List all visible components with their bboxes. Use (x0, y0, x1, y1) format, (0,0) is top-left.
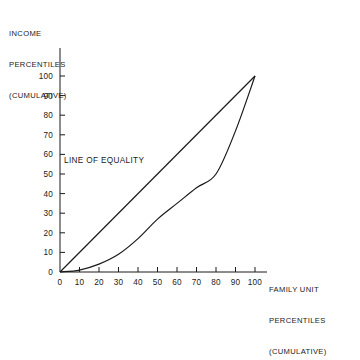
y-tick-label: 80 (43, 111, 53, 120)
line-of-equality-annotation: LINE OF EQUALITY (64, 156, 144, 165)
x-axis-title-line-3: (CUMULATIVE) (269, 347, 327, 357)
x-tick-label: 100 (248, 278, 262, 287)
x-tick-label: 60 (172, 278, 182, 287)
x-tick-label: 30 (114, 278, 124, 287)
x-tick-label: 10 (75, 278, 85, 287)
y-tick-label: 90 (43, 91, 53, 100)
y-tick-label: 30 (43, 209, 53, 218)
y-tick-label: 10 (43, 248, 53, 257)
y-tick-label: 20 (43, 228, 53, 237)
x-tick-label: 0 (58, 278, 63, 287)
x-tick-label: 50 (153, 278, 163, 287)
x-tick-label: 20 (94, 278, 104, 287)
y-tick-label: 40 (43, 189, 53, 198)
y-tick-label: 100 (39, 72, 53, 81)
x-tick-label: 70 (192, 278, 202, 287)
data-series (60, 76, 255, 272)
line-of-equality (60, 76, 255, 272)
y-tick-label: 70 (43, 130, 53, 139)
y-tick-label: 50 (43, 170, 53, 179)
x-tick-label: 40 (133, 278, 143, 287)
x-tick-label: 90 (231, 278, 241, 287)
x-tick-label: 80 (211, 278, 221, 287)
y-tick-label: 0 (48, 268, 53, 277)
y-tick-label: 60 (43, 150, 53, 159)
